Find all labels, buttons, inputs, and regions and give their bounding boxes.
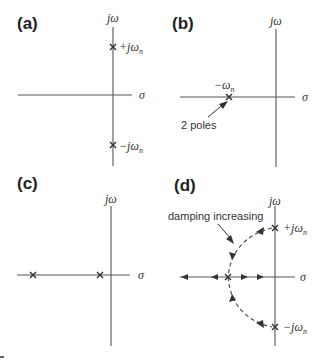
locus-upper-arc — [228, 228, 272, 277]
real-axis-label: σ — [139, 88, 146, 102]
pole-label-upper: +jωn — [283, 221, 307, 237]
panel-b-label: (b) — [172, 14, 194, 33]
axis-arrow-left-2 — [211, 274, 218, 280]
annotation-arrow — [218, 224, 234, 244]
real-axis-label: σ — [302, 90, 309, 104]
axis-arrow-left-1 — [181, 274, 188, 280]
arc-arrow-lower-2 — [256, 320, 264, 328]
panel-c: (c) jω σ — [0, 174, 145, 357]
root-locus-diagram: (a) jω σ +jωn −jωn (b) jω σ −ωn 2 pole — [0, 0, 325, 361]
imag-axis-label: jω — [105, 11, 119, 25]
pole-label-upper: +jωn — [119, 40, 143, 56]
panel-b: (b) jω σ −ωn 2 poles — [172, 14, 309, 167]
axis-arrow-right-2 — [257, 274, 264, 280]
imag-axis-label: jω — [267, 194, 281, 208]
pole-label: −ωn — [214, 78, 235, 94]
imag-axis-label: jω — [103, 192, 117, 206]
locus-lower-arc — [228, 277, 272, 327]
imag-axis-label: jω — [268, 14, 282, 28]
panel-a-label: (a) — [17, 14, 38, 33]
pole-label-lower: −jωn — [283, 320, 307, 336]
real-axis-label: σ — [300, 270, 307, 284]
axis-arrow-right-1 — [241, 274, 248, 280]
panel-d-label: (d) — [174, 176, 196, 195]
panel-d: (d) jω σ +jωn −jωn — [168, 176, 307, 346]
pole-label-lower: −jωn — [119, 139, 143, 155]
annotation-arrow — [208, 101, 228, 117]
panel-c-label: (c) — [17, 174, 38, 193]
panel-a: (a) jω σ +jωn −jωn — [17, 11, 146, 166]
real-axis-label: σ — [138, 268, 145, 282]
annotation-damping-increasing: damping increasing — [168, 210, 263, 222]
annotation-2-poles: 2 poles — [181, 119, 217, 131]
